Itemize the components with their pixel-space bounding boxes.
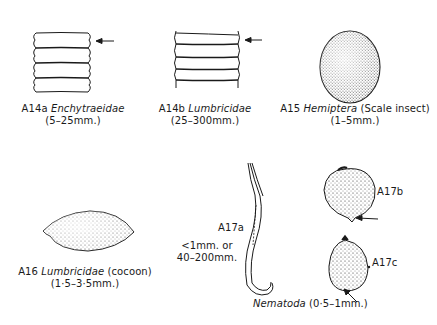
caption-a17c-id: A17c	[372, 257, 397, 269]
size-range: (25–300mm.)	[171, 115, 239, 126]
taxon-name: Hemiptera	[303, 103, 357, 114]
arrow-icon	[245, 38, 262, 43]
taxon-name: Lumbricidae	[188, 103, 251, 114]
size-range: 40–200mm.	[177, 252, 237, 263]
figure-id: A14a	[22, 103, 48, 114]
lumbricidae-segments-drawing	[175, 31, 240, 88]
caption-a16: A16 Lumbricidae (cocoon) (1·5–3·5mm.)	[10, 266, 160, 290]
figure-id: A14b	[159, 103, 185, 114]
taxon-name: Enchytraeidae	[51, 103, 124, 114]
hemiptera-scale-insect-drawing	[320, 31, 380, 103]
taxon-name: Lumbricidae	[41, 266, 104, 277]
caption-a14b: A14b Lumbricidae (25–300mm.)	[150, 103, 260, 127]
taxon-name: Nematoda	[253, 298, 306, 309]
size-range: (5–25mm.)	[45, 115, 100, 126]
cyst-a17b-drawing	[324, 167, 375, 222]
caption-a14a: A14a Enchytraeidae (5–25mm.)	[18, 103, 128, 127]
caption-nematoda: Nematoda (0·5–1mm.)	[253, 298, 368, 310]
size-range: (1·5–3·5mm.)	[51, 278, 119, 289]
caption-a15: A15 Hemiptera (Scale insect) (1–5mm.)	[275, 103, 435, 127]
size-range: <1mm. or	[181, 240, 233, 251]
caption-a17a-id: A17a	[218, 222, 244, 234]
arrow-icon	[356, 216, 378, 221]
size-range: (1–5mm.)	[331, 115, 380, 126]
caption-a17b-id: A17b	[377, 186, 403, 198]
figure-id: A15	[280, 103, 300, 114]
arrow-icon	[96, 39, 114, 44]
size-range: (0·5–1mm.)	[309, 298, 368, 309]
enchytraeidae-segments-drawing	[34, 33, 91, 93]
taxon-note: (Scale insect)	[361, 103, 430, 114]
lumbricidae-cocoon-drawing	[43, 211, 134, 251]
nematode-drawing	[246, 163, 273, 295]
taxon-note: (cocoon)	[108, 266, 152, 277]
caption-a17a-size: <1mm. or 40–200mm.	[176, 240, 238, 264]
figure-id: A16	[18, 266, 38, 277]
cyst-a17c-drawing	[329, 236, 370, 291]
